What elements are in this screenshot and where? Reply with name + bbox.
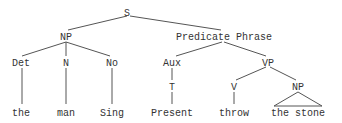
leaf-the-stone: the stone	[271, 108, 325, 119]
leaf-the: the	[12, 108, 30, 119]
leaf-sing: Sing	[100, 108, 124, 119]
node-no: No	[106, 58, 118, 69]
edge-s-predicate	[130, 16, 221, 30]
node-np: NP	[60, 32, 72, 43]
node-t: T	[169, 82, 175, 93]
np-triangle	[274, 92, 322, 106]
node-np2: NP	[292, 82, 304, 93]
node-n: N	[63, 58, 69, 69]
leaf-present: Present	[151, 108, 193, 119]
leaf-throw: throw	[219, 108, 249, 119]
edge-np-det	[22, 42, 66, 56]
syntax-tree-diagram: S NP Predicate Phrase Det N No Aux VP T …	[0, 0, 342, 123]
node-predicate-phrase: Predicate Phrase	[176, 32, 272, 43]
node-aux: Aux	[163, 58, 181, 69]
edge-np-no	[66, 42, 110, 56]
edge-s-np	[68, 16, 127, 30]
edge-pred-aux	[176, 42, 222, 56]
tree-labels: S NP Predicate Phrase Det N No Aux VP T …	[12, 8, 325, 119]
leaf-man: man	[57, 108, 75, 119]
node-vp: VP	[262, 58, 274, 69]
node-det: Det	[12, 58, 30, 69]
edge-pred-vp	[224, 42, 266, 56]
node-v: V	[231, 82, 237, 93]
node-s: S	[124, 8, 130, 19]
